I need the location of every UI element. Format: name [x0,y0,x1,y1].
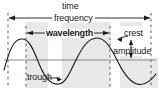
label-crest: crest [124,29,143,38]
label-trough: trough [27,73,52,82]
label-time: time [62,2,79,11]
frequency-arrowhead-left [9,16,15,21]
label-amplitude: amplitude [113,47,151,56]
label-wavelength: wavelength [45,29,94,38]
frequency-arrowhead-right [144,16,150,21]
wave-diagram-figure: time frequency wavelength crest amplitud… [0,0,158,99]
label-frequency: frequency [52,14,95,23]
